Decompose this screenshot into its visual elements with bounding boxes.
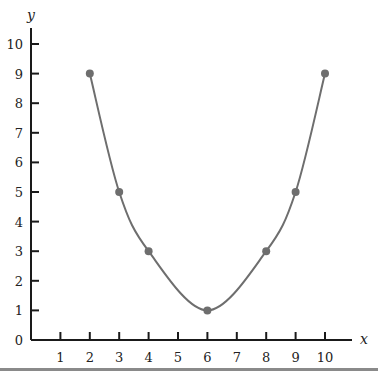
data-curve: [90, 74, 325, 311]
y-tick-label: 3: [15, 244, 23, 259]
x-tick-label: 3: [115, 350, 123, 365]
x-tick-label: 2: [86, 350, 94, 365]
x-tick-label: 7: [233, 350, 241, 365]
y-axis-title: y: [26, 7, 36, 23]
x-tick-label: 10: [317, 350, 334, 365]
data-point: [292, 188, 300, 196]
x-axis-title: x: [360, 331, 368, 347]
x-tick-label: 4: [144, 350, 152, 365]
x-tick-label: 9: [291, 350, 299, 365]
data-point: [145, 247, 153, 255]
y-tick-label: 4: [15, 215, 23, 230]
y-tick-label: 5: [15, 185, 23, 200]
data-point: [115, 188, 123, 196]
bottom-divider: [0, 368, 378, 371]
y-tick-label: 9: [15, 67, 23, 82]
y-axis: 012345678910: [6, 28, 39, 348]
y-tick-label: 1: [15, 303, 23, 318]
x-tick-label: 6: [203, 350, 211, 365]
y-tick-label: 2: [15, 274, 23, 289]
parabola-chart: 012345678910 12345678910 x y: [0, 0, 378, 373]
x-tick-label: 5: [174, 350, 182, 365]
data-point: [203, 306, 211, 314]
data-point: [86, 70, 94, 78]
y-tick-label: 10: [6, 37, 23, 52]
y-tick-label: 6: [15, 155, 23, 170]
x-tick-label: 1: [56, 350, 64, 365]
x-axis: 12345678910: [31, 332, 352, 365]
data-point: [262, 247, 270, 255]
data-markers: [86, 70, 329, 315]
data-point: [321, 70, 329, 78]
y-tick-label: 7: [15, 126, 23, 141]
x-tick-label: 8: [262, 350, 270, 365]
y-tick-label: 8: [15, 96, 23, 111]
y-tick-label: 0: [15, 333, 23, 348]
